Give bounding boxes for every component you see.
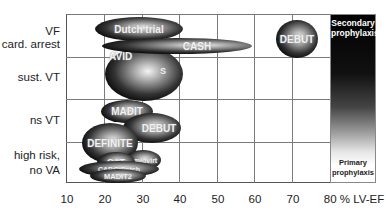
x-axis-title: 80 % LV-EF: [324, 193, 385, 205]
bubble-cash: CASH: [102, 38, 252, 54]
bubble-avid: AVID S: [105, 47, 183, 101]
x-tick-50: 50: [212, 193, 225, 205]
bubble-madit2: MADIT2: [90, 169, 146, 183]
x-tick-30: 30: [137, 193, 150, 205]
x-tick-60: 60: [249, 193, 262, 205]
secondary-prophylaxis-label: Secondary prophylaxis: [331, 18, 375, 38]
bubble-label-definite: DEFINITE: [87, 138, 133, 149]
x-tick-10: 10: [61, 193, 74, 205]
x-tick-40: 40: [174, 193, 187, 205]
y-label-vf: VF: [45, 25, 60, 38]
bubble-label-cash: CASH: [183, 41, 211, 52]
bubble-label-madit2: MADIT2: [104, 172, 132, 181]
y-label-ns-vt: ns VT: [30, 114, 60, 127]
y-label-high-risk: high risk,: [14, 149, 60, 162]
x-tick-70: 70: [287, 193, 300, 205]
x-tick-20: 20: [99, 193, 112, 205]
grid-line-y2: [66, 99, 330, 100]
prophylaxis-gradient-panel: Secondary prophylaxis Primary prophylaxi…: [330, 14, 376, 183]
bubble-label-debut-vf: DEBUT: [280, 34, 314, 45]
bubble-label-dutch-trial: Dutch trial: [114, 24, 163, 35]
y-label-no-va: no VA: [30, 164, 60, 177]
bubble-label-s: S: [160, 66, 166, 76]
bubble-label-debut-nsvt: DEBUT: [142, 123, 176, 134]
bubble-debut-vf: DEBUT: [276, 20, 318, 58]
y-label-sust-vt: sust. VT: [18, 71, 60, 84]
bubble-label-avid: AVID: [109, 51, 132, 62]
y-label-card-arrest: card. arrest: [2, 38, 60, 51]
primary-prophylaxis-label: Primary prophylaxis: [331, 158, 375, 178]
